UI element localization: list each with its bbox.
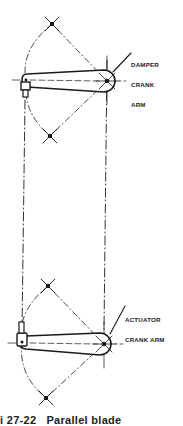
damper-left-pivot [25,79,28,82]
actuator-left-pivot [21,341,24,344]
actuator-rod-end [17,333,27,346]
damper-label-line1: DAMPER [131,62,159,69]
damper-rod-stub [23,90,28,97]
actuator-label-line1: ACTUATOR [125,317,165,324]
damper-hub-pivot [105,79,110,84]
damper-bottom-x-marker [43,129,57,143]
actuator-crank-assembly [8,279,125,405]
damper-crank-assembly [12,17,131,143]
damper-crank-arm-label: DAMPER CRANK ARM [131,49,159,115]
actuator-label-line2: CRANK ARM [125,337,165,344]
damper-label-line3: ARM [131,102,159,109]
actuator-crank-arm-label: ACTUATOR CRANK ARM [125,304,165,350]
actuator-rod-stub [19,322,24,333]
right-linkage-line [104,60,107,330]
actuator-top-x-marker [41,279,55,293]
damper-label-leader [113,53,131,72]
damper-top-x-marker [45,17,59,31]
damper-rod-end [21,82,30,90]
actuator-hub-pivot [102,342,107,347]
figure-caption: i 27-22 Parallel blade [0,414,122,426]
actuator-bottom-x-marker [39,391,53,405]
actuator-label-leader [110,306,125,334]
damper-label-line2: CRANK [131,82,159,89]
left-linkage-line [22,100,25,330]
